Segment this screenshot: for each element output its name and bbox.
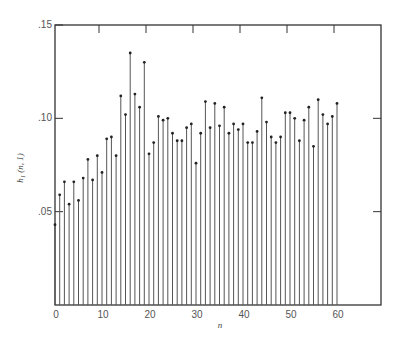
stem-marker (237, 128, 240, 131)
stem-marker (228, 132, 231, 135)
x-axis-label: n (218, 320, 223, 330)
stem-marker (307, 106, 310, 109)
stem-marker (232, 123, 235, 126)
stem-marker (185, 126, 188, 129)
stem-marker (166, 117, 169, 120)
y-axis-label: h₁ (n, 1) (15, 153, 25, 182)
stem-marker (275, 141, 278, 144)
stem-marker (124, 113, 127, 116)
stem-plot: .05.10.15 0102030405060 n h₁ (n, 1) (0, 0, 399, 348)
stem-marker (63, 180, 66, 183)
stem-marker (331, 115, 334, 118)
stem-marker (204, 100, 207, 103)
stem-marker (58, 193, 61, 196)
stem-marker (279, 136, 282, 139)
x-tick-label: 30 (191, 309, 203, 320)
stem-marker (317, 98, 320, 101)
x-tick-label: 10 (97, 309, 109, 320)
stem-marker (82, 177, 85, 180)
stem-marker (303, 119, 306, 122)
x-tick-label: 40 (238, 309, 250, 320)
stem-marker (265, 121, 268, 124)
stem-marker (260, 96, 263, 99)
stem-marker (105, 137, 108, 140)
x-tick-label: 20 (144, 309, 156, 320)
stem-marker (96, 154, 99, 157)
stem-marker (256, 130, 259, 133)
stem-marker (101, 171, 104, 174)
stem-marker (199, 132, 202, 135)
stem-marker (293, 117, 296, 120)
stem-marker (190, 123, 193, 126)
stem-marker (162, 119, 165, 122)
stem-marker (270, 136, 273, 139)
stem-marker (322, 113, 325, 116)
stem-marker (68, 203, 71, 206)
right-axis-ticks (373, 118, 381, 211)
stem-marker (223, 106, 226, 109)
y-tick-label: .10 (38, 112, 52, 123)
stem-marker (181, 139, 184, 142)
stem-marker (54, 223, 57, 226)
stem-marker (171, 132, 174, 135)
x-tick-label: 0 (53, 309, 59, 320)
stem-marker (119, 95, 122, 98)
stem-marker (213, 102, 216, 105)
stem-marker (312, 145, 315, 148)
y-tick-label: .15 (38, 19, 52, 30)
x-tick-label: 50 (285, 309, 297, 320)
stem-marker (195, 162, 198, 165)
stem-marker (129, 52, 132, 55)
stem-marker (77, 199, 80, 202)
stem-marker (143, 61, 146, 64)
stem-marker (115, 154, 118, 157)
stem-marker (91, 179, 94, 182)
stem-marker (72, 180, 75, 183)
stem-marker (152, 141, 155, 144)
stem-marker (284, 111, 287, 114)
x-axis-ticks: 0102030405060 (53, 309, 344, 320)
top-axis-ticks (99, 25, 334, 33)
y-tick-label: .05 (38, 206, 52, 217)
stem-marker (134, 93, 137, 96)
stem-marker (298, 139, 301, 142)
stem-marker (242, 123, 245, 126)
stem-marker (87, 158, 90, 161)
x-tick-label: 60 (332, 309, 344, 320)
stem-marker (251, 141, 254, 144)
stem-marker (326, 123, 329, 126)
stem-marker (176, 139, 179, 142)
stem-series (54, 52, 339, 305)
stem-marker (246, 141, 249, 144)
stem-marker (336, 102, 339, 105)
stem-marker (157, 115, 160, 118)
y-axis-ticks: .05.10.15 (38, 19, 63, 217)
stem-marker (218, 124, 221, 127)
stem-marker (138, 106, 141, 109)
stem-marker (148, 152, 151, 155)
stem-marker (289, 111, 292, 114)
stem-marker (110, 136, 113, 139)
stem-marker (209, 126, 212, 129)
